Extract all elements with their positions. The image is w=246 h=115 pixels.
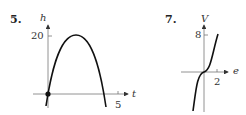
figure-5: h 20 5 t [31, 12, 137, 110]
cubic-curve [193, 34, 218, 111]
e-axis-label: e [233, 65, 239, 76]
t-axis-label: t [132, 88, 137, 99]
parabola-curve [46, 35, 106, 107]
h-axis-label: h [40, 12, 46, 23]
x-tick-2: 2 [214, 76, 220, 87]
y-tick-8: 8 [195, 29, 201, 40]
figure-7: V 8 2 e [181, 13, 239, 112]
figures-canvas: h 20 5 t V 8 2 e [0, 0, 246, 115]
v-axis-label: V [201, 13, 210, 24]
origin-point [45, 91, 50, 96]
x-tick-5: 5 [115, 99, 121, 110]
y-tick-20: 20 [31, 30, 44, 41]
